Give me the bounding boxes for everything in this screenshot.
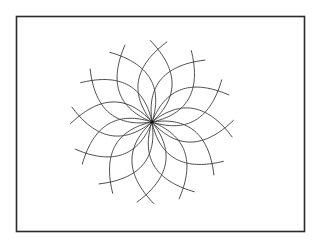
rosette-center-dot [150,120,153,123]
petal-arc [152,122,223,164]
petal-arc [132,122,154,203]
petal-arc [152,51,194,122]
petal [152,121,223,175]
petal [99,122,153,193]
petal-arc [152,120,233,142]
petal [151,51,205,122]
petal-arc [110,122,152,193]
petal [81,69,152,123]
petal-arc [150,41,172,122]
petal-arc [81,80,152,122]
rosette-figure [0,0,318,240]
petal-arc [71,102,152,124]
